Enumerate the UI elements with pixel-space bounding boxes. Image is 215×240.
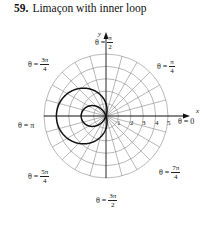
label-theta-0: θ = 0: [178, 118, 194, 126]
radial-tick-1: 1: [117, 119, 121, 127]
grid-radial-line: [106, 56, 122, 116]
grid-radial-line: [46, 100, 106, 116]
radial-tick-3: 3: [142, 119, 146, 127]
grid-radial-line: [106, 85, 160, 116]
grid-radial-line: [106, 100, 166, 116]
label-theta-3pi-2: θ = 3π2: [96, 192, 117, 209]
radial-tick-5: 5: [167, 119, 171, 127]
radial-tick-2: 2: [130, 119, 134, 127]
label-theta-pi-2: θ = π2: [95, 34, 113, 51]
radial-tick-4: 4: [155, 119, 159, 127]
label-theta-pi-4: θ = π4: [157, 58, 175, 75]
grid-radial-line: [106, 72, 150, 116]
grid-radial-line: [106, 62, 137, 116]
grid-radial-line: [46, 116, 106, 132]
label-theta-7pi-4: θ = 7π4: [159, 164, 180, 181]
label-theta-pi: θ = π: [18, 122, 34, 130]
label-theta-3pi-4: θ = 3π4: [28, 56, 49, 73]
x-axis-label: x: [196, 107, 199, 115]
label-theta-5pi-4: θ = 5π4: [28, 168, 49, 185]
